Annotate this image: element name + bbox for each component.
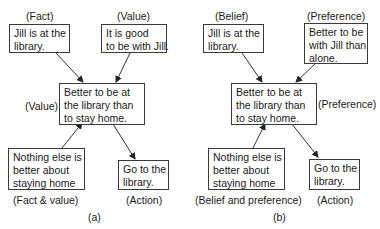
caption-a: (a) [88,211,101,223]
node-text-line: Jill is at the [208,27,259,40]
node-value: It is good to be with Jill. [101,24,167,53]
node-text-line: the library than [64,99,140,112]
node-bottom-left: Nothing else is better about staying hom… [8,148,85,190]
arrow-fact-to-center [56,53,83,82]
node-text-line: better about [213,164,280,177]
node-text-line: better about [13,164,80,177]
node-center-b: Better to be at the library than to stay… [231,83,317,125]
node-text-line: library. [208,40,259,53]
node-text-line: library. [123,176,164,189]
node-text-line: to stay home. [64,112,140,125]
arrow-bottom-to-center-b [253,124,265,148]
node-action: Go to the library. [118,160,169,190]
tag-value: (Value) [117,10,150,22]
node-text-line: Nothing else is [213,151,280,164]
tag-belief-and-preference: (Belief and preference) [195,194,302,206]
node-text-line: Better to be [309,26,363,39]
node-text-line: Nothing else is [13,151,80,164]
node-text-line: the library than [236,99,312,112]
arrow-value-to-center [116,53,130,82]
arrow-belief-to-center [242,53,262,82]
node-text-line: Go to the [314,162,355,175]
node-center: Better to be at the library than to stay… [59,83,145,125]
tag-center-value: (Value) [25,100,58,112]
node-text-line: It is good [106,27,162,40]
arrow-center-to-action-b [292,124,318,157]
arrow-preference-to-center [296,63,316,82]
tag-fact-and-value: (Fact & value) [13,194,78,206]
node-text-line: to stay home. [236,112,312,125]
caption-b: (b) [273,211,286,223]
tag-action: (Action) [126,194,162,206]
node-preference: Better to be with Jill than alone. [304,23,368,64]
node-text-line: staying home [213,177,280,190]
arrow-bottom-to-center [62,123,82,148]
node-text-line: alone. [309,52,363,65]
node-text-line: staying home [13,177,80,190]
tag-action-b: (Action) [317,194,353,206]
node-text-line: library. [14,40,65,53]
node-text-line: Better to be at [236,86,312,99]
node-text-line: Jill is at the [14,27,65,40]
tag-belief: (Belief) [215,10,248,22]
tag-fact: (Fact) [26,10,53,22]
tag-center-preference: (Preference) [318,98,376,110]
node-text-line: library. [314,175,355,188]
node-action-b: Go to the library. [309,159,360,190]
node-fact: Jill is at the library. [9,24,70,53]
node-belief: Jill is at the library. [203,24,264,53]
node-bottom-left-b: Nothing else is better about staying hom… [208,148,285,190]
node-text-line: Better to be at [64,86,140,99]
tag-preference: (Preference) [307,10,365,22]
arrow-center-to-action [113,124,135,159]
node-text-line: Go to the [123,163,164,176]
node-text-line: with Jill than [309,39,363,52]
node-text-line: to be with Jill. [106,40,162,53]
